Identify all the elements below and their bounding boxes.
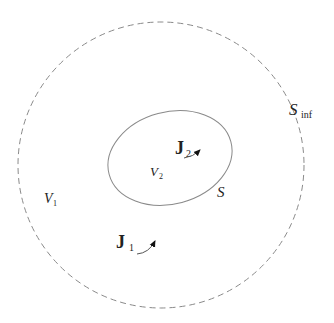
inner-boundary xyxy=(97,97,243,218)
s-inf-subscript: inf xyxy=(301,109,313,120)
j1-symbol: J xyxy=(116,232,125,252)
region-v1-label: V 1 xyxy=(44,191,57,208)
j2-symbol: J xyxy=(175,138,184,158)
region-v2-label: V 2 xyxy=(150,164,163,181)
v2-subscript: 2 xyxy=(159,172,163,181)
j1-subscript: 1 xyxy=(129,242,134,253)
outer-boundary xyxy=(18,22,304,308)
outer-boundary-label: S inf xyxy=(289,100,313,120)
diagram-figure: S inf S V 2 V 1 J 2 J 1 xyxy=(0,0,334,323)
current-j2: J 2 xyxy=(175,138,200,159)
inner-boundary-label: S xyxy=(217,184,225,200)
v1-subscript: 1 xyxy=(53,199,57,208)
current-j1: J 1 xyxy=(116,232,155,254)
j1-arrow-icon xyxy=(137,241,155,254)
s-inf-symbol: S xyxy=(289,100,298,119)
s-symbol: S xyxy=(217,184,225,200)
